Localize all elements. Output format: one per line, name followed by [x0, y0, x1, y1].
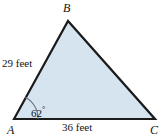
side-label-ac: 36 feet	[62, 122, 92, 133]
triangle-drawing	[0, 0, 166, 138]
side-label-ab: 29 feet	[2, 58, 32, 69]
angle-value-a: 62	[31, 107, 42, 119]
degree-symbol: °	[42, 105, 45, 114]
vertex-label-a: A	[7, 124, 14, 136]
triangle-figure: B A C 29 feet 36 feet 62°	[0, 0, 166, 138]
angle-label-a: 62°	[31, 106, 45, 119]
vertex-label-c: C	[150, 124, 158, 136]
vertex-label-b: B	[63, 2, 70, 14]
triangle-shape	[14, 21, 155, 119]
